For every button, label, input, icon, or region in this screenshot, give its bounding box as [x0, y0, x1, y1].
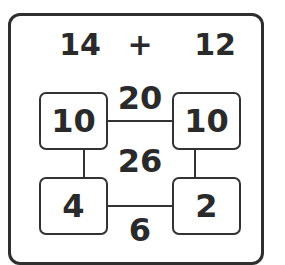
box-bottom-left: 4: [39, 177, 108, 235]
box-bottom-right: 2: [172, 177, 241, 235]
connector-left: [83, 149, 85, 177]
connector-right: [194, 149, 196, 177]
top-row-sum: 20: [110, 82, 170, 114]
left-operand: 14: [50, 30, 110, 60]
connector-top: [107, 120, 173, 122]
box-top-left: 10: [39, 92, 108, 150]
box-top-right: 10: [172, 92, 241, 150]
connector-bottom: [107, 205, 173, 207]
total-sum: 26: [110, 145, 170, 177]
right-operand: 12: [185, 30, 245, 60]
plus-operator: +: [125, 30, 155, 60]
bottom-row-sum: 6: [110, 214, 170, 246]
